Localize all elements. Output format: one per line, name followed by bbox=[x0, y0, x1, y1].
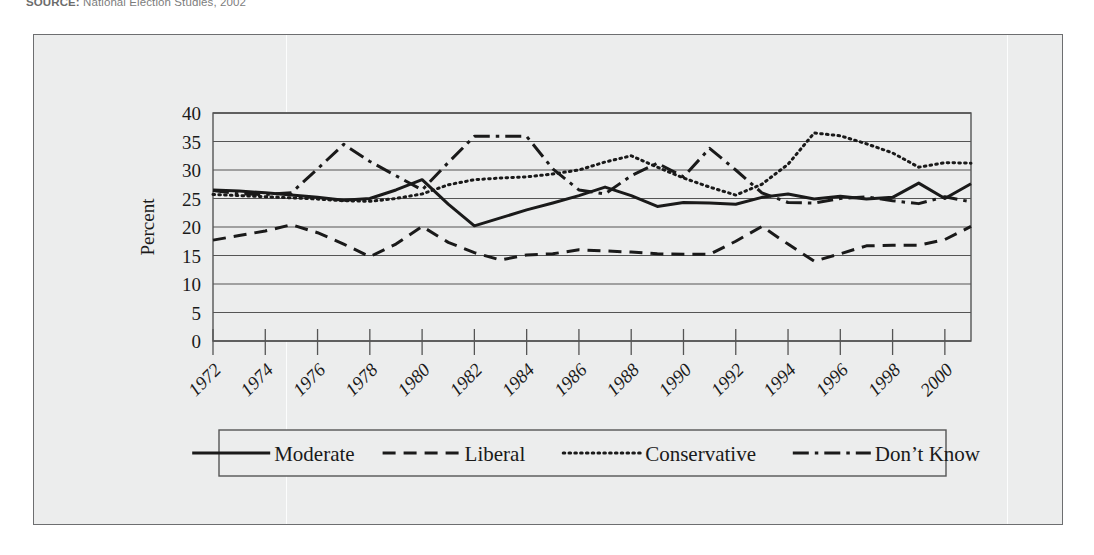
figure-frame: 0510152025303540Percent19721974197619781… bbox=[33, 34, 1063, 525]
legend-label: Don’t Know bbox=[875, 442, 981, 466]
x-tick-label: 1982 bbox=[446, 360, 486, 400]
source-note-prefix: SOURCE: bbox=[26, 0, 80, 8]
y-axis-label: Percent bbox=[137, 198, 158, 256]
x-tick-label: 1990 bbox=[655, 359, 696, 400]
legend-label: Conservative bbox=[645, 442, 756, 466]
source-note: SOURCE: National Election Studies, 2002 bbox=[26, 0, 246, 8]
x-tick-label: 1994 bbox=[760, 360, 800, 400]
y-tick-label: 5 bbox=[192, 303, 202, 324]
x-tick-label: 1988 bbox=[603, 359, 644, 400]
x-tick-label: 1980 bbox=[394, 359, 435, 400]
x-tick-label: 1998 bbox=[864, 359, 905, 400]
y-tick-label: 15 bbox=[182, 246, 201, 267]
x-tick-label: 1992 bbox=[707, 360, 747, 400]
line-chart: 0510152025303540Percent19721974197619781… bbox=[34, 35, 1064, 526]
y-tick-label: 40 bbox=[182, 103, 201, 124]
y-tick-label: 20 bbox=[182, 217, 201, 238]
x-tick-label: 1984 bbox=[498, 360, 538, 400]
x-tick-label: 1996 bbox=[812, 359, 853, 400]
x-tick-label: 2000 bbox=[916, 359, 957, 400]
x-tick-label: 1986 bbox=[550, 359, 591, 400]
legend-label: Liberal bbox=[465, 442, 526, 466]
y-tick-label: 10 bbox=[182, 274, 201, 295]
y-tick-label: 35 bbox=[182, 132, 201, 153]
x-tick-label: 1976 bbox=[289, 359, 330, 400]
y-tick-label: 0 bbox=[192, 331, 202, 352]
x-tick-label: 1972 bbox=[185, 360, 225, 400]
y-tick-label: 25 bbox=[182, 189, 201, 210]
x-tick-label: 1974 bbox=[237, 360, 277, 400]
legend-label: Moderate bbox=[274, 442, 354, 466]
y-tick-label: 30 bbox=[182, 160, 201, 181]
source-note-text: National Election Studies, 2002 bbox=[83, 0, 246, 8]
x-tick-label: 1978 bbox=[341, 359, 382, 400]
